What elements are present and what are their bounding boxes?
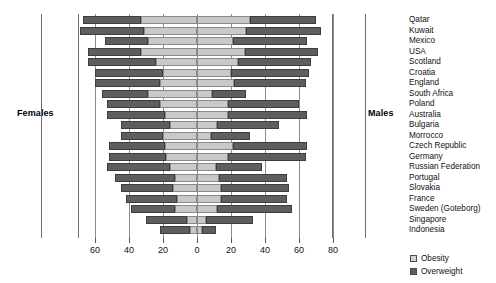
bar-segment-male-obesity <box>197 100 228 108</box>
bar-segment-male-overweight <box>233 142 308 150</box>
bar-segment-female-overweight <box>115 174 175 182</box>
bar-segment-female-overweight <box>95 69 163 77</box>
bar-row <box>78 58 333 68</box>
bar-segment-female-obesity <box>173 184 197 192</box>
bar-segment-male-obesity <box>197 48 245 56</box>
bar-row <box>78 16 333 26</box>
country-label: Croatia <box>409 68 435 78</box>
bar-segment-male-obesity <box>197 195 221 203</box>
bar-segment-female-overweight <box>88 58 156 66</box>
bar-segment-female-overweight <box>109 142 165 150</box>
country-label: Czech Republic <box>409 141 466 151</box>
bar-segment-female-overweight <box>121 132 164 140</box>
bar-segment-female-obesity <box>175 174 197 182</box>
bar-segment-female-overweight <box>121 121 170 129</box>
bar-row <box>78 163 333 173</box>
bar-segment-female-obesity <box>163 69 197 77</box>
bar-row <box>78 226 333 236</box>
bar-segment-male-overweight <box>246 27 321 35</box>
bar-segment-female-obesity <box>175 205 197 213</box>
country-label: England <box>409 78 439 88</box>
bar-row <box>78 69 333 79</box>
bar-segment-male-overweight <box>221 195 287 203</box>
bar-segment-female-obesity <box>156 58 197 66</box>
bar-segment-male-overweight <box>221 184 289 192</box>
bar-segment-female-obesity <box>148 37 197 45</box>
bar-segment-male-obesity <box>197 132 211 140</box>
bar-row <box>78 184 333 194</box>
tick-mark <box>299 238 300 243</box>
bar-segment-female-obesity <box>177 195 197 203</box>
tick-mark <box>231 238 232 243</box>
legend-swatch-overweight <box>410 268 417 275</box>
bar-segment-male-overweight <box>217 121 278 129</box>
country-label: Germany <box>409 152 443 162</box>
bar-row <box>78 121 333 131</box>
bar-segment-male-obesity <box>197 174 219 182</box>
bar-segment-female-overweight <box>88 48 141 56</box>
bar-segment-female-obesity <box>165 111 197 119</box>
plot-area: 604020020406080 <box>78 14 333 238</box>
legend-item-obesity: Obesity <box>410 252 494 264</box>
bar-row <box>78 153 333 163</box>
bar-segment-female-obesity <box>166 153 197 161</box>
country-label: Bulgaria <box>409 120 439 130</box>
bar-segment-male-overweight <box>234 79 305 87</box>
bar-segment-female-obesity <box>187 216 197 224</box>
tick-label: 40 <box>124 245 134 255</box>
bar-segment-female-overweight <box>105 37 148 45</box>
legend-item-overweight: Overweight <box>410 265 494 277</box>
bar-row <box>78 27 333 37</box>
bar-segment-female-overweight <box>126 195 177 203</box>
right-outer-rule <box>365 14 366 238</box>
bar-segment-male-obesity <box>197 16 250 24</box>
bar-segment-female-overweight <box>121 184 174 192</box>
bar-segment-male-obesity <box>197 37 233 45</box>
tick-mark <box>197 238 198 243</box>
obesity-overweight-pyramid-chart: Females Males 604020020406080 QatarKuwai… <box>0 0 496 283</box>
bar-segment-male-overweight <box>202 226 216 234</box>
country-label-list: QatarKuwaitMexicoUSAScotlandCroatiaEngla… <box>409 14 496 238</box>
country-label: South Africa <box>409 89 453 99</box>
bar-segment-female-overweight <box>131 205 175 213</box>
bar-row <box>78 90 333 100</box>
bar-segment-male-obesity <box>197 69 231 77</box>
bar-segment-female-obesity <box>144 27 197 35</box>
tick-mark <box>163 238 164 243</box>
bar-row <box>78 174 333 184</box>
bar-row <box>78 142 333 152</box>
bar-row <box>78 195 333 205</box>
legend-swatch-obesity <box>410 255 417 262</box>
bar-segment-female-obesity <box>141 16 197 24</box>
bar-segment-male-overweight <box>250 16 316 24</box>
bar-segment-male-obesity <box>197 121 217 129</box>
bar-row <box>78 100 333 110</box>
bar-segment-male-obesity <box>197 79 234 87</box>
bar-row <box>78 79 333 89</box>
bar-segment-male-obesity <box>197 216 206 224</box>
country-label: Kuwait <box>409 26 434 36</box>
bar-row <box>78 216 333 226</box>
tick-label: 20 <box>226 245 236 255</box>
bar-segment-female-overweight <box>107 163 170 171</box>
bar-segment-female-obesity <box>160 100 197 108</box>
bar-segment-male-overweight <box>206 216 254 224</box>
country-label: Sweden (Goteborg) <box>409 204 480 214</box>
tick-mark <box>129 238 130 243</box>
bar-segment-female-overweight <box>107 111 165 119</box>
country-label: Mexico <box>409 36 435 46</box>
country-label: Portugal <box>409 173 440 183</box>
bar-segment-male-obesity <box>197 111 228 119</box>
bar-segment-female-overweight <box>146 216 187 224</box>
bar-segment-female-overweight <box>95 79 160 87</box>
bar-segment-male-obesity <box>197 153 228 161</box>
country-label: Indonesia <box>409 225 445 235</box>
bar-segment-male-overweight <box>219 174 287 182</box>
bar-segment-male-obesity <box>197 184 221 192</box>
country-label: Morrocco <box>409 131 443 141</box>
bar-row <box>78 205 333 215</box>
bar-segment-male-overweight <box>231 69 309 77</box>
tick-label: 40 <box>260 245 270 255</box>
males-axis-label: Males <box>368 108 394 118</box>
bar-segment-female-obesity <box>170 163 197 171</box>
